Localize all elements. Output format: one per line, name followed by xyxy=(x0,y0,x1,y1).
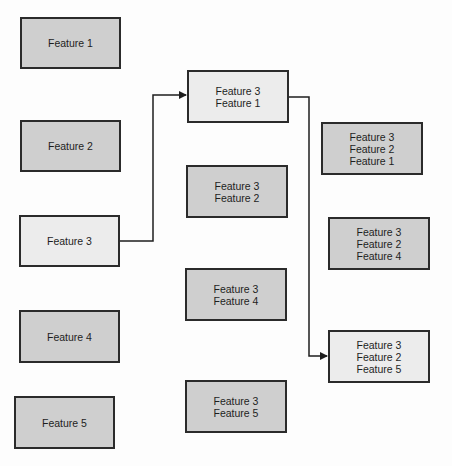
node-feature-3-4: Feature 3 Feature 4 xyxy=(185,268,287,321)
node-label: Feature 3 xyxy=(47,235,92,247)
node-label: Feature 2 xyxy=(357,238,402,250)
node-feature-4: Feature 4 xyxy=(19,310,120,363)
node-feature-3-2-4: Feature 3 Feature 2 Feature 4 xyxy=(328,217,430,270)
node-label: Feature 3 xyxy=(216,85,261,97)
node-feature-3-2-5: Feature 3 Feature 2 Feature 5 xyxy=(328,330,430,383)
node-label: Feature 2 xyxy=(357,351,402,363)
node-feature-3-5: Feature 3 Feature 5 xyxy=(185,380,287,433)
node-feature-3-2: Feature 3 Feature 2 xyxy=(186,165,288,218)
node-label: Feature 3 xyxy=(350,131,395,143)
node-label: Feature 1 xyxy=(350,155,395,167)
node-label: Feature 3 xyxy=(357,226,402,238)
node-feature-1: Feature 1 xyxy=(20,17,121,69)
node-label: Feature 5 xyxy=(357,363,402,375)
node-label: Feature 5 xyxy=(42,417,87,429)
node-label: Feature 2 xyxy=(48,140,93,152)
node-feature-2: Feature 2 xyxy=(20,120,121,172)
node-label: Feature 1 xyxy=(216,97,261,109)
node-label: Feature 4 xyxy=(214,295,259,307)
node-feature-3-2-1: Feature 3 Feature 2 Feature 1 xyxy=(321,122,423,175)
node-label: Feature 3 xyxy=(214,395,259,407)
node-feature-5: Feature 5 xyxy=(14,396,115,449)
node-feature-3: Feature 3 xyxy=(19,215,120,267)
node-feature-3-1: Feature 3 Feature 1 xyxy=(187,70,289,123)
node-label: Feature 3 xyxy=(214,283,259,295)
node-label: Feature 2 xyxy=(215,192,260,204)
node-label: Feature 4 xyxy=(357,250,402,262)
node-label: Feature 3 xyxy=(357,339,402,351)
node-label: Feature 3 xyxy=(215,180,260,192)
node-label: Feature 2 xyxy=(350,143,395,155)
node-label: Feature 4 xyxy=(47,331,92,343)
node-label: Feature 5 xyxy=(214,407,259,419)
diagram-canvas: Feature 1 Feature 2 Feature 3 Feature 4 … xyxy=(0,0,452,466)
edge-f3-to-f31 xyxy=(120,95,186,241)
node-label: Feature 1 xyxy=(48,37,93,49)
